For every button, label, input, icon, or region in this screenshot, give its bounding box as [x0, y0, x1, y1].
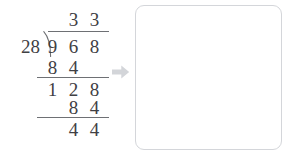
arrow-right-icon: [112, 64, 130, 80]
dividend-digit-tens: 6: [63, 37, 84, 56]
subtrahend2-digit-tens: 8: [63, 98, 84, 117]
long-division-problem: 3 3 28 9 6 8 8 4 1 2 8 8 4 4 4: [0, 0, 120, 157]
dividend-digit-hundreds: 9: [42, 37, 63, 56]
subtrahend1-digit-ones: 4: [63, 58, 84, 77]
subtrahend2-digit-ones: 4: [84, 98, 105, 117]
worksheet-canvas: 3 3 28 9 6 8 8 4 1 2 8 8 4 4 4: [0, 0, 293, 157]
subtraction-rule-1: [37, 77, 109, 78]
subtraction-rule-2: [37, 117, 109, 118]
subtrahend1-digit-tens: 8: [42, 58, 63, 77]
remainder-digit-tens: 4: [63, 120, 84, 139]
quotient-digit-tens: 3: [63, 10, 84, 29]
quotient-digit-ones: 3: [84, 10, 105, 29]
dividend-digit-ones: 8: [84, 37, 105, 56]
answer-box[interactable]: [135, 5, 282, 150]
remainder-digit-ones: 4: [84, 120, 105, 139]
division-vinculum: [48, 31, 109, 32]
divisor: 28: [17, 37, 44, 56]
difference1-digit-hundreds: 1: [42, 80, 63, 99]
